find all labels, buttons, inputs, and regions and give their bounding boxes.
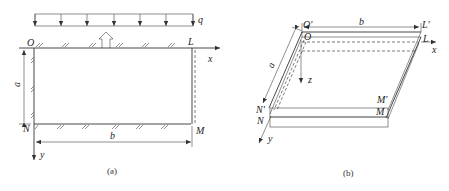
dim-a-label: a bbox=[11, 82, 22, 87]
x-axis-label-b: x bbox=[431, 44, 437, 55]
y-axis-label-b: y bbox=[267, 133, 273, 144]
caption-a: (a) bbox=[107, 166, 117, 176]
load-label-q: q bbox=[198, 14, 203, 25]
figure-canvas: q bbox=[0, 0, 449, 191]
M-prime-label: M' bbox=[376, 94, 388, 105]
N-label-b: N bbox=[256, 115, 265, 126]
L-label-b: L bbox=[422, 33, 429, 44]
figure-a: q bbox=[11, 14, 220, 176]
dimension-a: a bbox=[11, 50, 31, 124]
x-axis-label: x bbox=[207, 53, 213, 64]
N-prime-label: N' bbox=[255, 104, 266, 115]
clamp-hatches-bottom bbox=[35, 125, 168, 129]
dimension-b: b bbox=[36, 126, 192, 147]
dim-b-label-b: b bbox=[359, 16, 364, 27]
O-prime-label: O' bbox=[303, 19, 313, 30]
O-label-b: O bbox=[304, 31, 311, 42]
caption-b: (b) bbox=[343, 168, 354, 178]
dimension-b: b bbox=[302, 16, 421, 37]
figure-b: b a O' O L' L x z N' N M' bbox=[255, 16, 437, 178]
clamp-hatches-top bbox=[36, 43, 175, 47]
L-prime-label: L' bbox=[421, 19, 431, 30]
dim-b-label: b bbox=[110, 130, 115, 141]
distributed-load: q bbox=[35, 14, 203, 26]
M-label-b: M bbox=[375, 106, 385, 117]
plate-a bbox=[19, 48, 220, 160]
upward-arrow-icon bbox=[99, 32, 113, 48]
corner-M-label: M bbox=[195, 125, 205, 136]
dim-a-label-b: a bbox=[265, 60, 277, 69]
y-axis-label: y bbox=[39, 149, 45, 160]
origin-label: O bbox=[27, 37, 34, 48]
corner-N-label: N bbox=[22, 123, 31, 134]
corner-L-label: L bbox=[187, 36, 194, 47]
z-axis-label: z bbox=[307, 74, 312, 85]
